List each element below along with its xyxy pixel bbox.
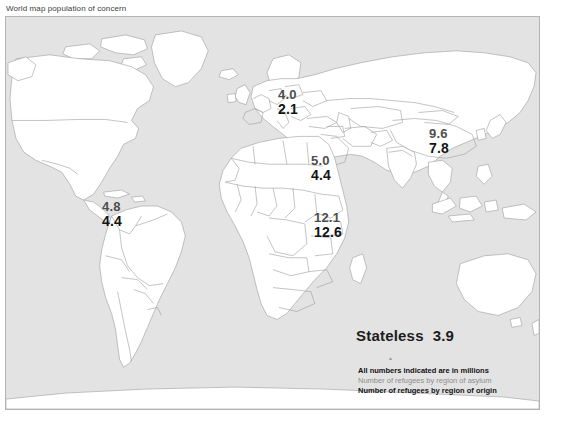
americas-asylum-value: 4.8 bbox=[102, 200, 122, 214]
landmass-new-guinea bbox=[502, 204, 536, 220]
stateless-label: Stateless bbox=[356, 327, 424, 344]
screenshot-root: World map population of concern bbox=[0, 0, 567, 427]
triangle-marker-icon: ▴ bbox=[389, 354, 392, 361]
landmass-korea bbox=[476, 128, 486, 140]
landmass-indochina bbox=[428, 160, 452, 192]
landmass-ireland bbox=[227, 94, 236, 103]
legend-origin-note: Number of refugees by region of origin bbox=[358, 386, 497, 396]
landmass-india bbox=[387, 146, 417, 188]
stateless-value: 3.9 bbox=[433, 327, 454, 344]
legend-asylum-note: Number of refugees by region of asylum bbox=[358, 376, 497, 386]
americas-origin-value: 4.4 bbox=[102, 214, 122, 229]
landmass-philippines bbox=[476, 164, 492, 184]
page-title: World map population of concern bbox=[6, 4, 126, 14]
landmass-new-zealand bbox=[532, 319, 539, 335]
africa-origin-value: 12.6 bbox=[314, 225, 342, 240]
landmass-greenland bbox=[151, 31, 208, 87]
landmass-iceland bbox=[219, 69, 238, 80]
asia-asylum-value: 9.6 bbox=[429, 127, 449, 141]
landmass-tasmania bbox=[510, 317, 522, 327]
asia-origin-value: 7.8 bbox=[429, 141, 449, 156]
landmass-sulawesi bbox=[484, 200, 498, 212]
landmass-madagascar bbox=[350, 254, 367, 284]
region-label-asia: 9.6 7.8 bbox=[429, 127, 449, 156]
region-label-mena: 5.0 4.4 bbox=[311, 154, 331, 183]
mena-asylum-value: 5.0 bbox=[311, 154, 331, 168]
map-legend: All numbers indicated are in millions Nu… bbox=[358, 366, 497, 396]
africa-asylum-value: 12.1 bbox=[314, 211, 342, 225]
landmass-sumatra bbox=[432, 198, 456, 214]
landmass-caribbean-cuba bbox=[104, 190, 130, 198]
border-iberia bbox=[243, 109, 263, 125]
europe-asylum-value: 4.0 bbox=[278, 88, 298, 102]
landmass-borneo bbox=[459, 196, 482, 212]
landmass-south-america bbox=[100, 206, 186, 367]
region-label-americas: 4.8 4.4 bbox=[102, 200, 122, 229]
europe-origin-value: 2.1 bbox=[278, 102, 298, 117]
world-map-graphic bbox=[6, 17, 539, 409]
region-label-europe: 4.0 2.1 bbox=[278, 88, 298, 117]
region-label-africa: 12.1 12.6 bbox=[314, 211, 342, 240]
landmass-great-britain bbox=[235, 85, 250, 105]
stateless-stat: Stateless3.9 bbox=[356, 327, 454, 344]
mena-origin-value: 4.4 bbox=[311, 168, 331, 183]
landmass-australia bbox=[456, 254, 536, 316]
landmass-arctic-islands bbox=[101, 35, 148, 55]
landmass-java bbox=[448, 214, 474, 222]
landmass-arctic-island-2 bbox=[63, 44, 100, 59]
legend-units-note: All numbers indicated are in millions bbox=[358, 366, 497, 376]
world-map[interactable]: 4.8 4.4 4.0 2.1 5.0 4.4 12.1 12.6 9.6 7.… bbox=[5, 16, 540, 410]
landmass-caribbean-hispaniola bbox=[132, 196, 146, 202]
